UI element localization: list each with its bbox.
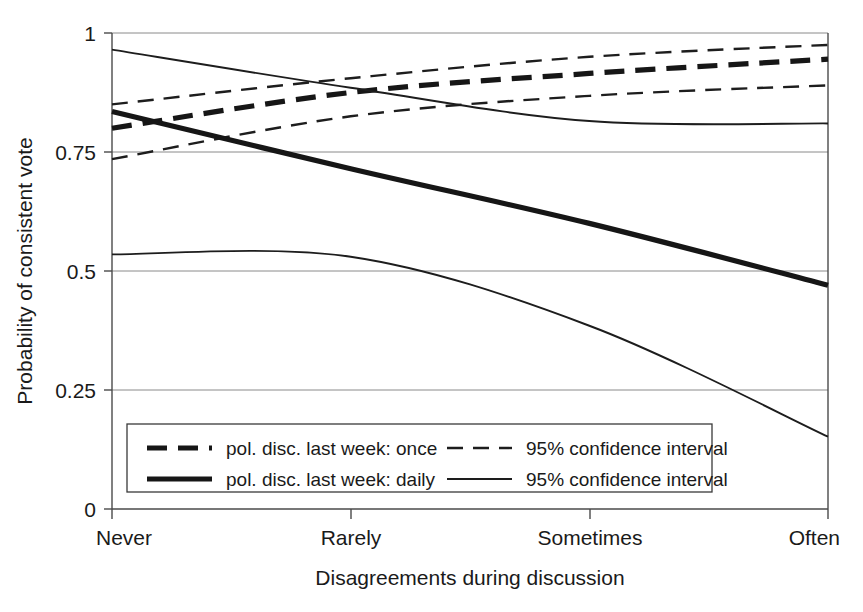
legend-entry-ci-solid[interactable]: 95% confidence interval — [447, 469, 728, 490]
legend-label-ci-solid: 95% confidence interval — [526, 469, 728, 490]
line-chart: 1 0.75 0.5 0.25 0 Never Rarely Sometimes… — [0, 0, 863, 612]
chart-figure: 1 0.75 0.5 0.25 0 Never Rarely Sometimes… — [0, 0, 863, 612]
y-tick-label-0-75: 0.75 — [55, 141, 96, 164]
x-tick-label-rarely: Rarely — [321, 526, 382, 549]
x-axis-title: Disagreements during discussion — [315, 566, 624, 589]
series-layer — [112, 45, 828, 437]
x-tick-label-often: Often — [789, 526, 840, 549]
legend-label-ci-dashed: 95% confidence interval — [526, 438, 728, 459]
y-tick-label-0-5: 0.5 — [67, 260, 96, 283]
y-axis-title: Probability of consistent vote — [13, 137, 36, 404]
series-line-thick-solid-3 — [112, 112, 828, 286]
series-line-upper-bound-once-1 — [112, 45, 828, 105]
y-tick-marks — [104, 33, 112, 509]
series-line-lower-bound-daily-5 — [112, 251, 828, 437]
series-line-thick-dashed-0 — [112, 59, 828, 128]
x-tick-marks — [112, 509, 828, 519]
y-tick-label-0-25: 0.25 — [55, 379, 96, 402]
y-tick-label-1: 1 — [84, 22, 96, 45]
legend-entry-ci-dashed[interactable]: 95% confidence interval — [447, 438, 728, 459]
series-line-lower-bound-once-2 — [112, 85, 828, 159]
legend: pol. disc. last week: once 95% confidenc… — [127, 424, 728, 492]
gridlines — [112, 33, 828, 390]
legend-entry-daily[interactable]: pol. disc. last week: daily — [147, 469, 436, 490]
x-tick-label-sometimes: Sometimes — [537, 526, 642, 549]
legend-label-once: pol. disc. last week: once — [226, 438, 437, 459]
legend-label-daily: pol. disc. last week: daily — [226, 469, 436, 490]
y-tick-label-0: 0 — [84, 498, 96, 521]
x-tick-label-never: Never — [96, 526, 152, 549]
legend-entry-once[interactable]: pol. disc. last week: once — [147, 438, 437, 459]
